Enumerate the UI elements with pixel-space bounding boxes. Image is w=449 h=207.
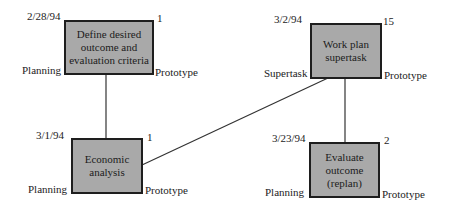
node-evaluate-date: 3/23/94 (272, 132, 306, 144)
node-economic-right-label: Prototype (145, 184, 188, 196)
node-work-plan-supertask[interactable]: Work plan supertask (310, 23, 382, 79)
node-define-desired-outcome[interactable]: Define desired outcome and evaluation cr… (64, 20, 154, 75)
node-workplan-right-label: Prototype (384, 69, 427, 81)
node-evaluate-count: 2 (384, 134, 390, 146)
node-economic-count: 1 (147, 131, 153, 143)
node-define-date: 2/28/94 (27, 10, 61, 22)
node-economic-left-label: Planning (28, 183, 67, 195)
node-workplan-count: 15 (383, 15, 394, 27)
node-evaluate-title: Evaluate outcome (replan) (325, 151, 363, 190)
node-workplan-title: Work plan supertask (323, 38, 369, 64)
edge-economic-workplan (142, 78, 328, 165)
node-economic-date: 3/1/94 (36, 129, 64, 141)
node-evaluate-outcome[interactable]: Evaluate outcome (replan) (309, 142, 380, 198)
node-workplan-date: 3/2/94 (274, 13, 302, 25)
node-define-left-label: Planning (22, 64, 61, 76)
node-define-count: 1 (157, 12, 163, 24)
node-define-right-label: Prototype (155, 66, 198, 78)
node-economic-title: Economic analysis (85, 153, 130, 179)
node-workplan-left-label: Supertask (264, 67, 307, 79)
node-define-title: Define desired outcome and evaluation cr… (69, 28, 149, 67)
node-evaluate-right-label: Prototype (382, 188, 425, 200)
node-economic-analysis[interactable]: Economic analysis (71, 138, 143, 194)
task-diagram: 2/28/94 1 Define desired outcome and eva… (0, 0, 449, 207)
node-evaluate-left-label: Planning (265, 186, 304, 198)
